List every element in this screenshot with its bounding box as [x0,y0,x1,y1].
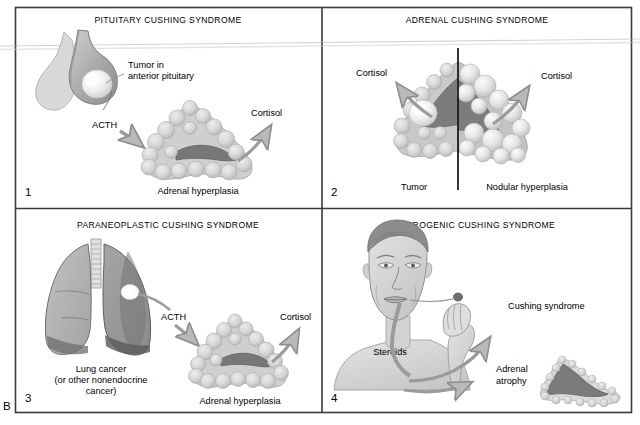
panel-3-cortisol-label: Cortisol [280,312,311,322]
panel-2-cortisol-left-label: Cortisol [356,68,387,78]
panel-1-number: 1 [25,186,31,198]
panel-4-steroids-label: Steroids [373,347,407,357]
panel-1-cortisol-label: Cortisol [251,108,282,118]
panel-3-number: 3 [25,392,31,404]
panel-1-tumor-label-line1: Tumor in [128,60,164,70]
panel-1-tumor-label-line2: anterior pituitary [128,71,194,81]
panel-4-cushing-label: Cushing syndrome [508,301,585,311]
panel-2-nodular-caption: Nodular hyperplasia [486,182,569,192]
panel-3-lung-caption-line2: (or other nonendocrine [55,375,148,385]
panel-2-number: 2 [331,186,337,198]
panel-2-cortisol-right-label: Cortisol [541,71,572,81]
panel-3-acth-label: ACTH [161,312,186,322]
panel-3-lung-caption-line3: cancer) [86,386,117,396]
panel-3-lung-caption-line1: Lung cancer [76,364,127,374]
panel-4-title: IATROGENIC CUSHING SYNDROME [399,220,555,230]
figure-panel-letter: B [3,400,11,412]
panel-3-title: PARANEOPLASTIC CUSHING SYNDROME [77,220,259,230]
panel-2-title: ADRENAL CUSHING SYNDROME [406,15,549,25]
panel-4-atrophy-label-line1: Adrenal [496,364,528,374]
panel-1-acth-label: ACTH [92,120,117,130]
cushing-syndrome-figure: PITUITARY CUSHING SYNDROME 1 Tumor in an… [0,0,640,425]
panel-4-atrophy-label-line2: atrophy [496,376,527,386]
panel-3-adrenal-caption: Adrenal hyperplasia [199,396,281,406]
panel-1-title: PITUITARY CUSHING SYNDROME [94,15,241,25]
panel-2-tumor-caption: Tumor [401,182,427,192]
panel-4-number: 4 [331,392,338,404]
panel-1-adrenal-caption: Adrenal hyperplasia [157,186,239,196]
